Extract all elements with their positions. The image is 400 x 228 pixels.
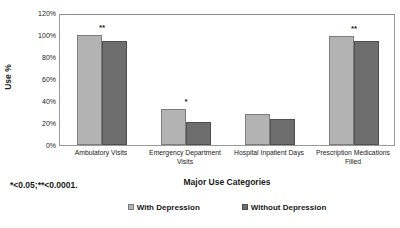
chart-legend: With DepressionWithout Depression	[59, 200, 395, 214]
x-axis-label-4: Prescription MedicationsFilled	[311, 149, 395, 166]
bar-2-series-1[interactable]	[161, 109, 186, 145]
bars-container: *****	[60, 15, 394, 145]
plot-area: *****	[59, 14, 395, 146]
bar-chart-figure: Use % 120%100%80%60%40%20%0% ***** Ambul…	[0, 0, 400, 228]
y-axis-tick-120: 120%	[22, 10, 56, 18]
bar-1-series-1[interactable]	[77, 35, 102, 145]
legend-item-2[interactable]: Without Depression	[242, 203, 326, 212]
bar-1-series-2[interactable]	[102, 41, 127, 146]
y-axis-tick-80: 80%	[22, 54, 56, 62]
x-axis-label-line: Ambulatory Visits	[59, 149, 143, 158]
y-axis-tick-60: 60%	[22, 76, 56, 84]
bar-group-1: **	[60, 15, 144, 145]
bar-4-series-1[interactable]	[329, 36, 354, 145]
bar-2-series-2[interactable]	[186, 122, 211, 145]
y-axis-tick-20: 20%	[22, 120, 56, 128]
x-axis-label-1: Ambulatory Visits	[59, 149, 143, 158]
bar-group-2: *	[144, 15, 228, 145]
x-axis-category-labels: Ambulatory VisitsEmergency DepartmentVis…	[59, 149, 395, 173]
x-axis-label-2: Emergency DepartmentVisits	[143, 149, 227, 166]
legend-swatch-without-depression	[242, 204, 248, 210]
y-axis-label: Use %	[3, 47, 13, 107]
x-axis-label-3: Hospital Inpatient Days	[227, 149, 311, 158]
y-axis-tick-40: 40%	[22, 98, 56, 106]
x-axis-label-line: Filled	[311, 158, 395, 167]
bar-3-series-2[interactable]	[270, 119, 295, 145]
x-axis-title: Major Use Categories	[59, 177, 395, 187]
bar-3-series-1[interactable]	[245, 114, 270, 145]
x-axis-label-line: Prescription Medications	[311, 149, 395, 158]
bar-4-series-2[interactable]	[354, 41, 379, 146]
bar-group-4: **	[312, 15, 396, 145]
significance-marker-1: **	[77, 24, 127, 32]
significance-marker-2: *	[161, 98, 211, 106]
y-axis-tick-100: 100%	[22, 32, 56, 40]
x-axis-label-line: Hospital Inpatient Days	[227, 149, 311, 158]
legend-item-label: Without Depression	[251, 203, 326, 212]
legend-item-label: With Depression	[137, 203, 200, 212]
legend-swatch-with-depression	[128, 204, 134, 210]
significance-footnote: *<0.05;**<0.0001.	[10, 180, 78, 190]
y-axis-tick-labels: 120%100%80%60%40%20%0%	[22, 0, 56, 160]
x-axis-label-line: Visits	[143, 158, 227, 167]
legend-item-1[interactable]: With Depression	[128, 203, 200, 212]
significance-marker-4: **	[329, 25, 379, 33]
x-axis-label-line: Emergency Department	[143, 149, 227, 158]
bar-group-3	[228, 15, 312, 145]
y-axis-tick-0: 0%	[22, 142, 56, 150]
